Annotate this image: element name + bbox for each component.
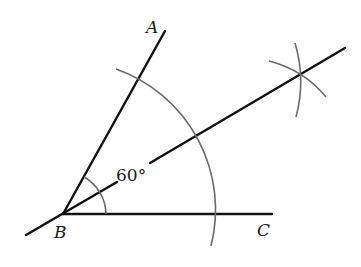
point-label-a: A [144,17,158,37]
angle-bisector-line-lower [26,182,117,235]
compass-arc-vertical [295,43,301,117]
point-label-c: C [257,220,270,240]
angle-bisector-line-upper [150,48,345,163]
compass-arc-diagonal [269,61,326,97]
compass-arc-large [116,69,216,246]
angle-bisector-diagram: A B C 60° [0,0,361,267]
ray-ba [63,31,165,214]
point-label-b: B [53,222,67,242]
angle-label: 60° [116,165,146,185]
